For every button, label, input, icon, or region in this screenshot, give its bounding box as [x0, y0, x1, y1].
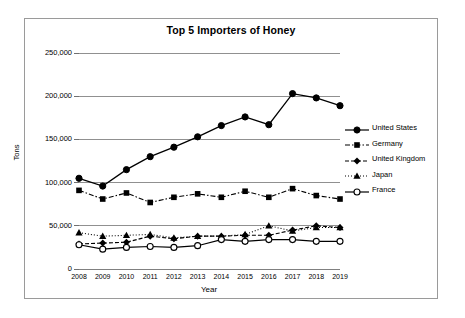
data-point-marker	[354, 127, 360, 133]
data-point-marker	[123, 244, 129, 250]
data-point-marker	[354, 157, 361, 164]
y-tick-label: 0	[26, 264, 72, 273]
data-point-marker	[123, 167, 129, 173]
data-point-marker	[337, 196, 343, 202]
legend-label: United States	[372, 123, 417, 132]
data-point-marker	[76, 188, 82, 194]
series-line	[79, 189, 340, 203]
legend-label: Japan	[372, 170, 392, 179]
data-point-marker	[313, 193, 319, 199]
data-point-marker	[241, 231, 248, 237]
data-point-marker	[219, 194, 225, 200]
x-tick-label: 2019	[327, 273, 353, 280]
data-point-marker	[171, 144, 177, 150]
series-france	[76, 237, 343, 253]
data-point-marker	[76, 175, 82, 181]
data-point-marker	[124, 190, 130, 196]
y-axis-label: Tons	[12, 123, 21, 183]
data-point-marker	[337, 238, 343, 244]
legend-item[interactable]: France	[344, 182, 440, 198]
series-line	[79, 226, 340, 244]
data-point-marker	[313, 95, 319, 101]
data-point-marker	[99, 240, 106, 247]
legend-label: France	[372, 185, 395, 194]
data-point-marker	[100, 196, 106, 202]
x-tick-label: 2014	[208, 273, 234, 280]
data-point-marker	[313, 238, 319, 244]
data-point-marker	[354, 142, 360, 148]
x-tick-label: 2017	[280, 273, 306, 280]
chart-figure: Top 5 Importers of Honey Tons Year 050,0…	[0, 0, 465, 318]
data-series-layer	[75, 91, 343, 253]
data-point-marker	[147, 154, 153, 160]
data-point-marker	[195, 134, 201, 140]
x-tick-label: 2013	[185, 273, 211, 280]
data-point-marker	[266, 122, 272, 128]
data-point-marker	[266, 194, 272, 200]
legend-label: Germany	[372, 139, 403, 148]
series-line	[79, 226, 340, 238]
legend-item[interactable]: Germany	[344, 136, 440, 152]
data-point-marker	[354, 189, 360, 195]
data-point-marker	[242, 188, 248, 194]
data-point-marker	[195, 243, 201, 249]
data-point-marker	[290, 237, 296, 243]
chart-legend: United StatesGermanyUnited KingdomJapanF…	[344, 120, 440, 198]
x-tick-label: 2016	[256, 273, 282, 280]
data-point-marker	[75, 229, 82, 235]
data-point-marker	[242, 238, 248, 244]
series-line	[79, 240, 340, 250]
x-tick-label: 2008	[66, 273, 92, 280]
data-point-marker	[171, 194, 177, 200]
y-tick-label: 250,000	[26, 48, 72, 57]
legend-marker-icon	[344, 137, 370, 149]
y-tick-label: 50,000	[26, 221, 72, 230]
legend-item[interactable]: Japan	[344, 167, 440, 183]
x-axis-label: Year	[78, 285, 340, 294]
data-point-marker	[147, 244, 153, 250]
data-point-marker	[76, 242, 82, 248]
legend-marker-icon	[344, 184, 370, 196]
series-japan	[75, 222, 343, 241]
data-point-marker	[147, 231, 154, 237]
data-point-marker	[147, 200, 153, 206]
data-point-marker	[218, 122, 224, 128]
data-point-marker	[100, 246, 106, 252]
data-point-marker	[195, 191, 201, 197]
legend-marker-icon	[344, 122, 370, 134]
legend-label: United Kingdom	[372, 154, 425, 163]
data-point-marker	[170, 234, 177, 240]
x-tick-label: 2012	[161, 273, 187, 280]
data-point-marker	[290, 186, 296, 192]
y-tick-label: 150,000	[26, 134, 72, 143]
data-point-marker	[171, 244, 177, 250]
x-tick-label: 2009	[90, 273, 116, 280]
y-tick-label: 100,000	[26, 178, 72, 187]
data-point-marker	[100, 183, 106, 189]
y-tick-label: 200,000	[26, 91, 72, 100]
data-point-marker	[266, 237, 272, 243]
x-tick-label: 2015	[232, 273, 258, 280]
legend-marker-icon	[344, 168, 370, 180]
legend-marker-icon	[344, 153, 370, 165]
data-point-marker	[218, 237, 224, 243]
legend-item[interactable]: United States	[344, 120, 440, 136]
legend-item[interactable]: United Kingdom	[344, 151, 440, 167]
series-germany	[76, 186, 343, 205]
data-point-marker	[289, 91, 295, 97]
x-tick-label: 2011	[137, 273, 163, 280]
data-point-marker	[242, 114, 248, 120]
x-tick-label: 2018	[303, 273, 329, 280]
data-point-marker	[337, 103, 343, 109]
x-tick-label: 2010	[113, 273, 139, 280]
